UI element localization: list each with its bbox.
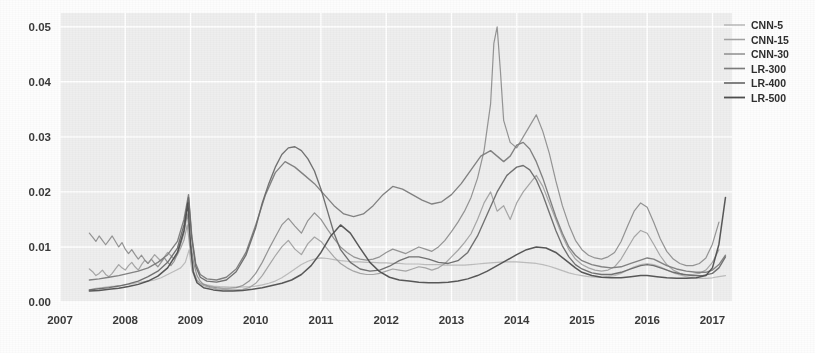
x-tick-label-2010: 2010: [243, 314, 269, 326]
chart-legend: CNN-5CNN-15CNN-30LR-300LR-400LR-500: [724, 19, 789, 104]
legend-label-lr-300: LR-300: [751, 63, 786, 75]
x-tick-label-2013: 2013: [439, 314, 465, 326]
chart-figure: 0.000.010.020.030.040.05 200720082009201…: [0, 0, 815, 353]
y-tick-label-0.03: 0.03: [29, 131, 51, 143]
y-axis-tick-labels: 0.000.010.020.030.040.05: [29, 21, 52, 308]
legend-label-cnn-30: CNN-30: [751, 48, 789, 60]
x-tick-label-2007: 2007: [47, 314, 73, 326]
legend-label-cnn-5: CNN-5: [751, 19, 783, 31]
plot-background: [60, 13, 732, 302]
x-tick-label-2012: 2012: [373, 314, 399, 326]
x-tick-label-2016: 2016: [634, 314, 660, 326]
y-tick-label-0.05: 0.05: [29, 21, 52, 33]
y-tick-label-0.01: 0.01: [29, 241, 52, 253]
legend-label-lr-500: LR-500: [751, 92, 786, 104]
time-series-line-chart: 0.000.010.020.030.040.05 200720082009201…: [0, 0, 815, 353]
x-tick-label-2015: 2015: [569, 314, 595, 326]
x-tick-label-2008: 2008: [112, 314, 138, 326]
x-tick-label-2009: 2009: [178, 314, 204, 326]
legend-label-lr-400: LR-400: [751, 77, 786, 89]
x-tick-label-2011: 2011: [308, 314, 334, 326]
x-tick-label-2017: 2017: [700, 314, 726, 326]
legend-label-cnn-15: CNN-15: [751, 34, 789, 46]
y-tick-label-0.02: 0.02: [29, 186, 51, 198]
x-axis-tick-labels: 2007200820092010201120122013201420152016…: [47, 314, 725, 326]
y-tick-label-0.04: 0.04: [29, 76, 52, 88]
x-tick-label-2014: 2014: [504, 314, 530, 326]
y-tick-label-0.00: 0.00: [29, 296, 51, 308]
